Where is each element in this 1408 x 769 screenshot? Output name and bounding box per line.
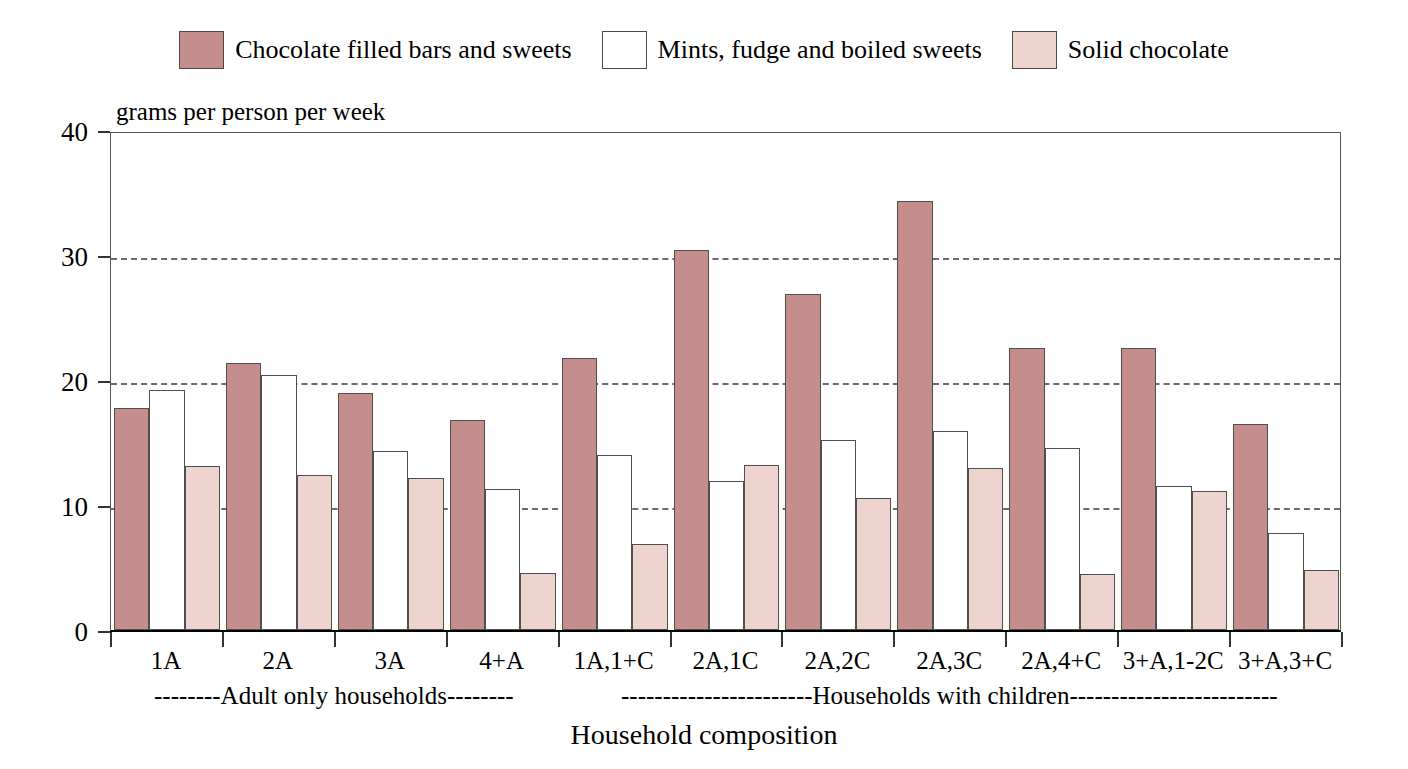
legend-swatch-icon: [602, 31, 647, 69]
bar: [1080, 574, 1115, 630]
group-bracket-label: -----------------------Households with c…: [621, 683, 1278, 708]
bar: [785, 294, 820, 630]
y-tick-label: 40: [0, 119, 88, 146]
x-tick-mark: [1117, 632, 1119, 647]
y-tick-mark: [98, 131, 110, 133]
legend-label: Solid chocolate: [1068, 37, 1229, 63]
bar: [149, 390, 184, 630]
y-tick-label: 10: [0, 494, 88, 521]
x-tick-mark: [110, 632, 112, 647]
y-axis-labels: 010203040: [0, 0, 110, 769]
x-tick-label: 4+A: [479, 648, 524, 673]
y-axis-title: grams per person per week: [116, 99, 385, 124]
x-tick-label: 1A,1+C: [574, 648, 654, 673]
bar: [856, 498, 891, 631]
bar: [185, 466, 220, 630]
bar-group: [897, 133, 1003, 630]
y-tick-label: 0: [0, 619, 88, 646]
x-tick-mark: [558, 632, 560, 647]
bar: [1045, 448, 1080, 631]
bar: [261, 375, 296, 630]
x-tick-label: 1A: [151, 648, 182, 673]
y-tick-mark: [98, 381, 110, 383]
bar-group: [674, 133, 780, 630]
bar: [114, 408, 149, 631]
y-tick-label: 20: [0, 369, 88, 396]
y-tick-mark: [98, 631, 110, 633]
legend-label: Mints, fudge and boiled sweets: [658, 37, 982, 63]
bar: [450, 420, 485, 630]
x-axis-group-brackets: --------Adult only households-----------…: [110, 683, 1341, 717]
bar: [744, 465, 779, 630]
bar: [226, 363, 261, 631]
bar: [821, 440, 856, 630]
bar: [520, 573, 555, 631]
legend-label: Chocolate filled bars and sweets: [235, 37, 571, 63]
x-tick-label: 3A: [374, 648, 405, 673]
x-axis-labels: 1A2A3A4+A1A,1+C2A,1C2A,2C2A,3C2A,4+C3+A,…: [110, 648, 1341, 682]
x-axis-ticks: [110, 632, 1341, 648]
legend-swatch-icon: [1012, 31, 1057, 69]
x-tick-mark: [1229, 632, 1231, 647]
bar: [562, 358, 597, 631]
bar: [485, 489, 520, 630]
x-tick-mark: [781, 632, 783, 647]
x-tick-mark: [1005, 632, 1007, 647]
bar: [709, 481, 744, 630]
chart-legend: Chocolate filled bars and sweetsMints, f…: [0, 24, 1408, 76]
y-tick-mark: [98, 506, 110, 508]
bar-group: [1121, 133, 1227, 630]
legend-item: Solid chocolate: [1012, 31, 1229, 69]
legend-item: Chocolate filled bars and sweets: [179, 31, 571, 69]
x-tick-label: 2A: [263, 648, 294, 673]
bar: [632, 544, 667, 630]
plot-area: [110, 132, 1341, 632]
bar-group: [1009, 133, 1115, 630]
x-tick-label: 3+A,3+C: [1238, 648, 1332, 673]
bar-group: [450, 133, 556, 630]
bar: [1121, 348, 1156, 631]
bar: [373, 451, 408, 630]
x-tick-mark: [222, 632, 224, 647]
x-axis-title: Household composition: [0, 721, 1408, 749]
bar: [1233, 424, 1268, 630]
bar: [597, 455, 632, 630]
bar-group: [562, 133, 668, 630]
y-tick-label: 30: [0, 244, 88, 271]
bar: [1156, 486, 1191, 630]
bar-group: [1233, 133, 1339, 630]
bar: [933, 431, 968, 630]
group-bracket-label: --------Adult only households--------: [154, 683, 514, 708]
bar: [1192, 491, 1227, 630]
x-tick-label: 3+A,1-2C: [1123, 648, 1224, 673]
bar-group: [338, 133, 444, 630]
bar: [1268, 533, 1303, 631]
bar: [674, 250, 709, 630]
bar: [408, 478, 443, 631]
x-tick-label: 2A,1C: [693, 648, 759, 673]
x-tick-mark: [893, 632, 895, 647]
bar: [1304, 570, 1339, 630]
legend-item: Mints, fudge and boiled sweets: [602, 31, 982, 69]
bar: [1009, 348, 1044, 631]
legend-swatch-icon: [179, 31, 224, 69]
x-tick-mark: [1341, 632, 1343, 647]
bar-group: [226, 133, 332, 630]
bar-group: [114, 133, 220, 630]
bar: [338, 393, 373, 631]
x-tick-label: 2A,4+C: [1021, 648, 1101, 673]
bar: [897, 201, 932, 630]
y-tick-mark: [98, 256, 110, 258]
x-tick-label: 2A,3C: [916, 648, 982, 673]
bar: [968, 468, 1003, 631]
bar-group: [785, 133, 891, 630]
x-tick-mark: [446, 632, 448, 647]
x-tick-mark: [670, 632, 672, 647]
bar: [297, 475, 332, 630]
x-tick-mark: [334, 632, 336, 647]
x-tick-label: 2A,2C: [804, 648, 870, 673]
